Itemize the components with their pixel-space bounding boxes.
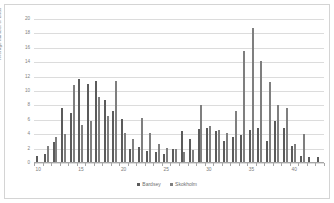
bar [286,108,288,163]
x-tick-mark [43,163,44,166]
x-tick-mark [170,163,171,166]
bar [107,116,109,163]
bar-group [36,19,42,163]
x-tick-mark [162,163,163,166]
x-axis-ticks: 10152025303540 [34,163,324,177]
y-tick-label: 16 [25,46,30,51]
legend-item[interactable]: Skokholm [170,182,197,187]
bar-group [274,19,280,163]
y-tick-label: 14 [25,60,30,65]
x-tick-mark [298,163,299,166]
bar [47,146,49,163]
bar [115,81,117,163]
bar-chart: Average number of birds 0246810121416182… [0,0,334,203]
bar-group [181,19,187,163]
bar [223,141,225,163]
bar-group [215,19,221,163]
legend-label: Bardsey [142,182,160,187]
x-tick-label: 40 [291,168,296,173]
bar-group [155,19,161,163]
bar [104,100,106,163]
y-tick-label: 8 [27,103,30,108]
bar [189,139,191,163]
x-tick-mark [213,163,214,166]
bar [294,144,296,163]
x-tick-mark [315,163,316,166]
bar-group [104,19,110,163]
bar [260,61,262,163]
bar [98,97,100,163]
legend-swatch-icon [137,183,140,186]
bar [124,133,126,163]
bar [240,135,242,163]
x-tick-mark [111,163,112,166]
bar [283,128,285,163]
bar [87,84,89,163]
x-tick-mark [264,163,265,166]
bar-group [206,19,212,163]
x-tick-mark [34,163,35,166]
bar-group [198,19,204,163]
bar [166,148,168,163]
bar [235,111,237,163]
bar-group [70,19,76,163]
bar-group [223,19,229,163]
x-tick-mark [324,163,325,166]
y-axis-ticks: 02468101214161820 [0,19,32,163]
bar-group [240,19,246,163]
bar [274,121,276,163]
x-tick-mark [145,163,146,166]
bar [112,111,114,163]
x-tick-mark [256,163,257,166]
x-tick-label: 15 [78,168,83,173]
bar-group [87,19,93,163]
bar [291,146,293,163]
bar [252,28,254,163]
x-tick-mark [68,163,69,166]
bar [95,81,97,163]
x-tick-mark [136,163,137,166]
bar-group [95,19,101,163]
bar-group [300,19,306,163]
bar-group [138,19,144,163]
bar-group [112,19,118,163]
x-tick-mark [153,163,154,166]
x-tick-mark [196,163,197,166]
bar-group [257,19,263,163]
bar-group [317,19,323,163]
legend-item[interactable]: Bardsey [137,182,161,187]
y-tick-label: 4 [27,132,30,137]
bar-group [189,19,195,163]
bar-group [129,19,135,163]
bar [303,134,305,163]
bar [218,130,220,163]
bar [90,121,92,163]
bar [172,149,174,163]
bar-group [61,19,67,163]
x-tick-mark [290,163,291,166]
bar [138,147,140,163]
chart-legend: BardseySkokholm [0,182,334,187]
bar [81,125,83,163]
bar-group [121,19,127,163]
bar [269,82,271,163]
bar [158,144,160,163]
bar [132,139,134,163]
bar-group [249,19,255,163]
x-tick-mark [85,163,86,166]
bar [149,133,151,163]
bar [129,149,131,163]
bar [198,129,200,163]
bar-group [78,19,84,163]
bar [215,131,217,163]
y-tick-label: 12 [25,74,30,79]
bar [61,108,63,163]
bar-group [283,19,289,163]
bars-layer [34,19,324,163]
bar [209,126,211,163]
x-tick-mark [222,163,223,166]
bar-group [53,19,59,163]
y-tick-label: 6 [27,118,30,123]
x-tick-mark [281,163,282,166]
x-tick-label: 30 [206,168,211,173]
